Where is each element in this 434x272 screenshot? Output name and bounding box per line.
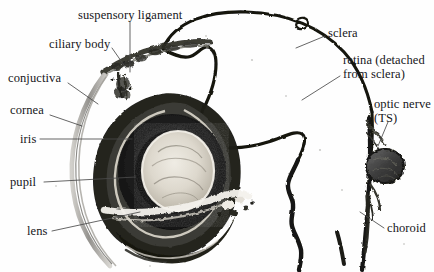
eye-dissection-figure: suspensory ligament ciliary body conjuct… — [0, 0, 434, 272]
leader-ciliary-body — [112, 48, 126, 68]
leader-pupil — [44, 177, 136, 182]
leader-lens — [52, 212, 140, 231]
label-lens: lens — [27, 225, 48, 239]
label-choroid: choroid — [387, 222, 426, 236]
label-iris: iris — [20, 133, 36, 147]
leader-retina-detached — [302, 76, 340, 100]
label-pupil: pupil — [10, 176, 36, 190]
label-suspensory-ligament: suspensory ligament — [78, 9, 182, 23]
leader-choroid — [360, 212, 384, 228]
label-ciliary-body: ciliary body — [49, 38, 110, 52]
leader-conjuctiva — [68, 83, 98, 104]
label-sclera: sclera — [328, 27, 358, 41]
label-conjuctiva: conjuctiva — [8, 72, 61, 86]
leader-optic-nerve — [378, 122, 388, 146]
label-cornea: cornea — [10, 104, 44, 118]
label-retina-detached: retina (detached from sclera) — [343, 54, 425, 81]
label-optic-nerve: optic nerve (TS) — [374, 98, 431, 125]
leader-sclera — [296, 36, 325, 48]
leader-cornea — [50, 115, 82, 126]
